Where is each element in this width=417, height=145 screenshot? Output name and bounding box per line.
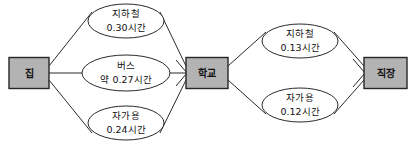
edge-time-home-car: 0.24시간 (106, 124, 145, 135)
edge-mode-school-car: 자가용 (286, 92, 314, 103)
edge-mode-home-car: 자가용 (112, 110, 140, 121)
edge-line-school-car-left (228, 80, 266, 114)
edge-time-school-subway: 0.13시간 (280, 42, 319, 53)
edge-time-home-bus: 약 0.27시간 (100, 74, 151, 85)
edge-mode-school-subway: 지하철 (286, 28, 314, 39)
diagram-canvas: 지하철 0.30시간 버스 약 0.27시간 자가용 0.24시간 지하철 0.… (0, 0, 417, 145)
node-label-home: 집 (25, 68, 34, 79)
node-home[interactable]: 집 (9, 58, 49, 89)
transport-time-diagram: 지하철 0.30시간 버스 약 0.27시간 자가용 0.24시간 지하철 0.… (0, 0, 417, 145)
edge-time-school-car: 0.12시간 (280, 106, 319, 117)
edge-time-home-subway: 0.30시간 (106, 22, 145, 33)
node-label-workplace: 직장 (377, 67, 396, 79)
edge-mode-home-bus: 버스 (117, 60, 135, 71)
edge-line-school-car-right (334, 80, 364, 114)
node-school[interactable]: 학교 (186, 58, 228, 89)
arrowhead-into-workplace (353, 59, 365, 87)
edge-line-school-subway-right (334, 32, 364, 66)
edge-mode-home-subway: 지하철 (112, 8, 140, 19)
edge-line-home-car-left (49, 80, 92, 133)
edge-line-home-subway-left (49, 12, 92, 66)
node-workplace[interactable]: 직장 (364, 58, 407, 89)
edge-line-school-subway-left (228, 32, 266, 66)
node-label-school: 학교 (198, 67, 216, 79)
